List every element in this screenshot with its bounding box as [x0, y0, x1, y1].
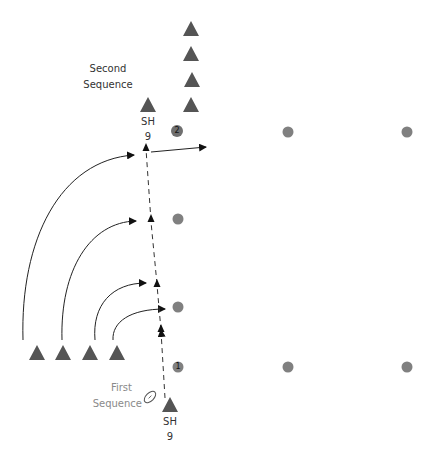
first-sequence-line2: Sequence	[92, 398, 142, 410]
drill-diagram: Second Sequence SH 9 2 1 First Sequence …	[0, 0, 433, 453]
sh-bottom-role: SH	[160, 416, 180, 428]
pass-curve-1	[23, 155, 134, 340]
defenders-column	[183, 21, 200, 112]
cone-icon	[402, 362, 413, 373]
cone-icon	[283, 127, 294, 138]
cone-icon	[283, 362, 294, 373]
player-triangle-icon	[183, 21, 199, 36]
arrow-up-icon	[143, 143, 150, 151]
player-triangle-icon	[183, 46, 199, 61]
cones	[171, 125, 413, 373]
player-triangle-icon	[184, 72, 200, 87]
cone-icon	[173, 302, 184, 313]
first-sequence-line1: First	[92, 382, 142, 394]
pass-curve-2	[62, 221, 136, 340]
first-sequence-label: First Sequence	[92, 382, 142, 410]
arrow-up-icon	[158, 324, 165, 332]
player-triangle-icon	[55, 345, 71, 360]
arrow-up-icon	[148, 214, 155, 222]
curved-passes	[23, 155, 165, 340]
sh-top-role: SH	[138, 116, 158, 128]
cone-icon	[173, 214, 184, 225]
sh-bottom-player-icon	[162, 397, 178, 412]
sh-top-number: 9	[138, 131, 158, 143]
player-triangle-icon	[183, 97, 199, 112]
second-sequence-label: Second Sequence	[83, 63, 133, 91]
cone-icon	[402, 127, 413, 138]
second-sequence-line1: Second	[83, 63, 133, 75]
player-triangle-icon	[82, 345, 98, 360]
second-sequence-line2: Sequence	[83, 79, 133, 91]
sh-bottom-number: 9	[160, 431, 180, 443]
arrow-up-icon	[154, 279, 161, 287]
sh-top-player-icon	[140, 97, 156, 112]
cone-2-number: 2	[172, 125, 182, 137]
player-triangle-icon	[109, 345, 125, 360]
sh-dashed-run	[146, 149, 165, 398]
player-triangle-icon	[29, 345, 45, 360]
pass-right-arrow	[151, 147, 206, 152]
run-arrowheads	[143, 143, 165, 332]
cone-1-number: 1	[173, 361, 183, 373]
pitch-canvas	[0, 0, 433, 453]
rugby-ball-icon	[142, 389, 158, 405]
pass-curve-4	[113, 309, 165, 340]
attackers-row	[29, 345, 125, 360]
pass-curve-3	[95, 283, 146, 340]
